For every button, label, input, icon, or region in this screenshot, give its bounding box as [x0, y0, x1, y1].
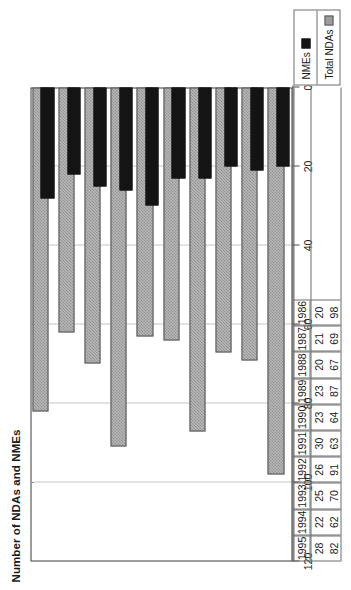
bar-nmes [67, 87, 80, 174]
chart-canvas: Number of NDAs and NMEs 020406080100120 … [0, 0, 351, 590]
table-cell-total-ndas: 64 [325, 405, 340, 429]
table-cell-year: 1988 [293, 352, 310, 376]
table-column: 19892387 [293, 378, 340, 404]
solid-black-swatch-icon [301, 38, 310, 48]
table-column: 19942262 [293, 509, 340, 535]
table-cell-nmes: 28 [310, 536, 325, 560]
table-cell-nmes: 20 [310, 300, 325, 324]
gridline [31, 481, 291, 482]
table-cell-nmes: 26 [310, 457, 325, 481]
table-cell-total-ndas: 98 [325, 300, 340, 324]
bar-nmes [276, 87, 289, 166]
bar-nmes [145, 87, 158, 206]
bar-nmes [40, 87, 53, 198]
legend-item-label: Total NDAs [323, 29, 334, 79]
table-column: 19922691 [293, 456, 340, 482]
table-cell-year: 1987 [293, 326, 310, 350]
table-cell-total-ndas: 82 [325, 536, 340, 560]
table-column: 19913063 [293, 430, 340, 456]
table-cell-total-ndas: 69 [325, 326, 340, 350]
bar-nmes [93, 87, 106, 186]
bar-nmes [119, 87, 132, 190]
table-cell-year: 1990 [293, 405, 310, 429]
table-cell-year: 1989 [293, 379, 310, 403]
table-column: 19932570 [293, 482, 340, 508]
bar-nmes [171, 87, 184, 178]
table-column: 19952882 [293, 535, 340, 561]
gridline [31, 402, 291, 403]
table-cell-nmes: 21 [310, 326, 325, 350]
table-cell-total-ndas: 67 [325, 352, 340, 376]
category-data-table: 1986209819872169198820671989238719902364… [293, 87, 340, 561]
table-cell-total-ndas: 70 [325, 483, 340, 507]
table-cell-nmes: 30 [310, 431, 325, 455]
legend-item-label: NMEs [300, 52, 311, 79]
bar-nmes [224, 87, 237, 166]
table-cell-year: 1993 [293, 483, 310, 507]
table-cell-total-ndas: 87 [325, 379, 340, 403]
bar-nmes [198, 87, 211, 178]
legend-item-nmes: NMEs [294, 10, 317, 84]
table-cell-year: 1992 [293, 457, 310, 481]
table-column: 19902364 [293, 404, 340, 430]
page-title: Number of NDAs and NMEs [9, 429, 21, 582]
table-cell-nmes: 23 [310, 379, 325, 403]
table-column: 19862098 [293, 299, 340, 325]
table-cell-year: 1994 [293, 510, 310, 534]
table-cell-nmes: 20 [310, 352, 325, 376]
table-column: 19872169 [293, 325, 340, 351]
table-cell-nmes: 22 [310, 510, 325, 534]
table-cell-total-ndas: 91 [325, 457, 340, 481]
rotated-chart-wrapper: Number of NDAs and NMEs 020406080100120 … [0, 0, 351, 590]
table-column: 19882067 [293, 351, 340, 377]
hatched-gray-swatch-icon [324, 15, 333, 25]
table-cell-year: 1991 [293, 431, 310, 455]
legend-item-total-ndas: Total NDAs [317, 10, 340, 84]
table-cell-total-ndas: 63 [325, 431, 340, 455]
table-cell-nmes: 23 [310, 405, 325, 429]
bar-nmes [250, 87, 263, 170]
table-cell-nmes: 25 [310, 483, 325, 507]
chart-legend: NMEs Total NDAs [293, 9, 340, 85]
table-cell-year: 1995 [293, 536, 310, 560]
table-cell-year: 1986 [293, 300, 310, 324]
table-cell-total-ndas: 62 [325, 510, 340, 534]
